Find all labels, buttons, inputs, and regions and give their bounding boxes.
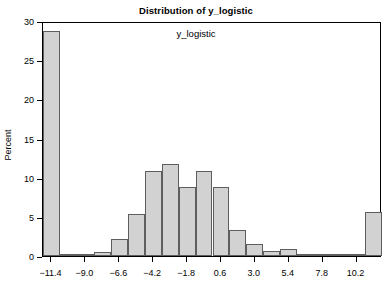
x-axis-tick-mark xyxy=(118,257,119,262)
x-axis: −11.4−9.0−6.6−4.2−1.80.63.05.47.810.2 xyxy=(0,257,392,305)
x-axis-tick-label: −6.6 xyxy=(109,268,127,278)
x-axis-tick-label: 5.4 xyxy=(282,268,295,278)
y-axis-tick-label: 15 xyxy=(24,135,34,145)
plot-area xyxy=(42,22,381,257)
histogram-bar xyxy=(246,244,263,256)
x-axis-tick-label: −4.2 xyxy=(143,268,161,278)
histogram-bar xyxy=(314,254,331,256)
x-axis-tick-label: −11.4 xyxy=(39,268,61,278)
x-axis-tick-mark xyxy=(50,257,51,262)
histogram-bar xyxy=(280,249,297,256)
y-axis-tick-label: 20 xyxy=(24,95,34,105)
x-axis-title: y_logistic xyxy=(0,28,392,39)
y-axis-tick-label: 10 xyxy=(24,174,34,184)
chart-title: Distribution of y_logistic xyxy=(0,5,392,16)
histogram-bar xyxy=(43,31,60,256)
x-axis-tick-mark xyxy=(152,257,153,262)
x-axis-tick-label: −1.8 xyxy=(177,268,195,278)
x-axis-tick-label: 3.0 xyxy=(248,268,261,278)
y-axis-tick-label: 5 xyxy=(29,213,34,223)
x-axis-tick-mark xyxy=(84,257,85,262)
histogram-chart: Distribution of y_logistic 051015202530 … xyxy=(0,0,392,305)
histogram-bar xyxy=(162,164,179,256)
histogram-bar xyxy=(77,254,94,256)
histogram-bar xyxy=(331,254,348,256)
x-axis-tick-mark xyxy=(186,257,187,262)
histogram-bar xyxy=(145,171,162,256)
y-axis-tick-label: 30 xyxy=(24,17,34,27)
histogram-bar xyxy=(365,212,382,256)
x-axis-tick-label: 7.8 xyxy=(315,268,328,278)
y-axis-title: Percent xyxy=(3,115,13,175)
histogram-bar xyxy=(348,254,365,256)
y-axis-tick-label: 25 xyxy=(24,56,34,66)
x-axis-tick-label: −9.0 xyxy=(75,268,93,278)
histogram-bar xyxy=(213,187,230,256)
x-axis-tick-mark xyxy=(288,257,289,262)
x-axis-tick-mark xyxy=(356,257,357,262)
histogram-bar xyxy=(94,252,111,256)
x-axis-tick-mark xyxy=(322,257,323,262)
histogram-bar xyxy=(179,187,196,256)
x-axis-tick-mark xyxy=(254,257,255,262)
histogram-bar xyxy=(60,254,77,256)
histogram-bar xyxy=(297,254,314,256)
histogram-bar xyxy=(196,171,213,256)
x-axis-tick-label: 10.2 xyxy=(347,268,365,278)
x-axis-tick-mark xyxy=(220,257,221,262)
histogram-bar xyxy=(128,214,145,256)
histogram-bar xyxy=(263,251,280,256)
histogram-bar xyxy=(111,239,128,256)
x-axis-tick-label: 0.6 xyxy=(214,268,227,278)
bars-layer xyxy=(43,23,380,256)
histogram-bar xyxy=(229,230,246,256)
